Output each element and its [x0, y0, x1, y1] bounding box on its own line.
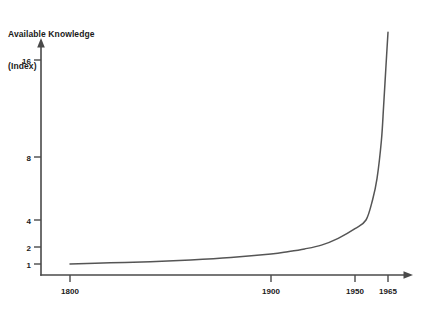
knowledge-growth-curve	[70, 32, 388, 264]
y-tick-label-16: 16	[22, 57, 31, 66]
y-tick-label-2: 2	[27, 244, 32, 253]
x-tick-label-1950: 1950	[346, 287, 364, 296]
y-axis-arrow-icon	[37, 38, 45, 48]
y-tick-label-4: 4	[27, 217, 32, 226]
x-tick-label-1965: 1965	[379, 287, 397, 296]
y-tick-label-8: 8	[27, 154, 32, 163]
y-tick-label-1: 1	[27, 261, 32, 270]
x-axis-arrow-icon	[404, 271, 414, 279]
chart-plot-area: 16 8 4 2 1 1800 1900 1950 1965	[0, 0, 424, 311]
x-tick-label-1900: 1900	[262, 287, 280, 296]
x-tick-label-1800: 1800	[61, 287, 79, 296]
chart-container: Available Knowledge (Index) 16 8 4 2 1 1…	[0, 0, 424, 311]
